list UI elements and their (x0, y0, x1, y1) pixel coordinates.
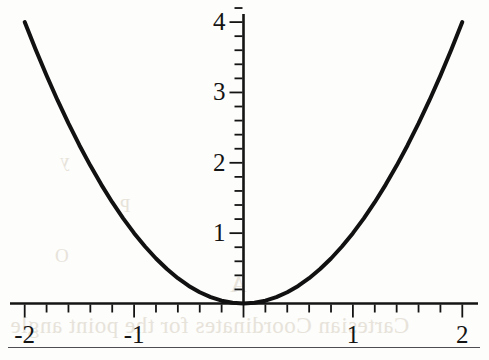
scanned-page: y P O A Cartesian Coordinates for the po… (0, 0, 489, 360)
x-axis-ticks (25, 305, 463, 318)
axes-group (10, 8, 478, 317)
x-tick-label: 2 (442, 322, 482, 347)
y-tick-label: 1 (196, 220, 226, 245)
y-tick-label: 2 (196, 150, 226, 175)
x-tick-label: -1 (114, 322, 154, 347)
parabola-plot (0, 0, 489, 360)
footer-horizontal-rule (8, 347, 480, 348)
y-axis-ticks (230, 8, 243, 289)
y-tick-label: 3 (196, 79, 226, 104)
y-tick-label: 4 (196, 9, 226, 34)
x-tick-label: 1 (333, 322, 373, 347)
x-tick-label: -2 (5, 322, 45, 347)
